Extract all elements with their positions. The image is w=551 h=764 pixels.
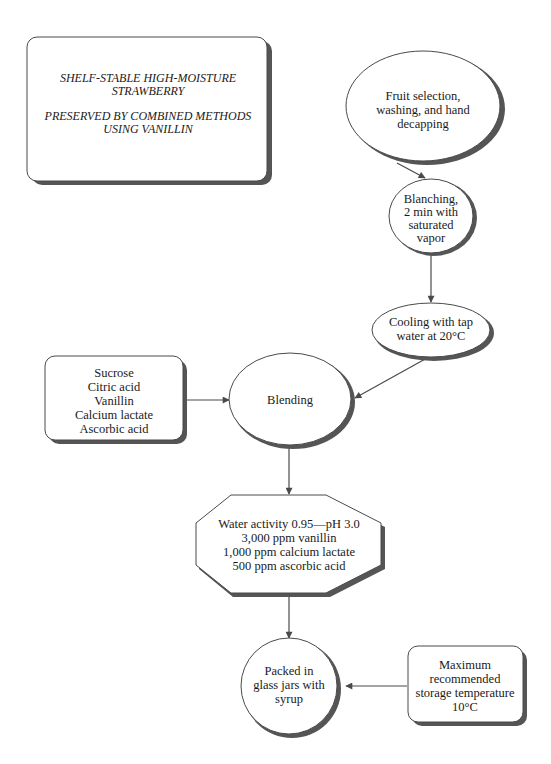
node-storage: Maximum recommended storage temperature … xyxy=(408,646,527,726)
title-line-4: USING VANILLIN xyxy=(103,122,193,136)
node-fruit-selection: Fruit selection, washing, and hand decap… xyxy=(346,51,505,165)
title-line-2: STRAWBERRY xyxy=(112,84,186,98)
svg-text:Blanching,: Blanching, xyxy=(404,192,459,206)
svg-text:washing, and hand: washing, and hand xyxy=(376,103,470,117)
title-line-1: SHELF-STABLE HIGH-MOISTURE xyxy=(60,71,237,85)
node-ingredients: Sucrose Citric acid Vanillin Calcium lac… xyxy=(45,356,187,444)
title-line-3: PRESERVED BY COMBINED METHODS xyxy=(44,109,252,123)
node-formulation: Water activity 0.95—pH 3.0 3,000 ppm van… xyxy=(196,495,385,597)
node-packed: Packed in glass jars with syrup xyxy=(241,638,341,738)
node-blanching: Blanching, 2 min with saturated vapor xyxy=(389,179,477,256)
svg-text:Ascorbic acid: Ascorbic acid xyxy=(79,422,149,436)
svg-text:decapping: decapping xyxy=(397,117,449,131)
svg-text:Cooling with tap: Cooling with tap xyxy=(389,315,473,329)
svg-text:Fruit selection,: Fruit selection, xyxy=(386,89,461,103)
svg-text:Maximum: Maximum xyxy=(439,658,491,672)
svg-text:10°C: 10°C xyxy=(452,700,478,714)
svg-text:Packed in: Packed in xyxy=(265,664,315,678)
svg-text:recommended: recommended xyxy=(430,672,502,686)
svg-text:glass jars with: glass jars with xyxy=(253,678,325,692)
svg-text:Sucrose: Sucrose xyxy=(94,366,134,380)
svg-text:2 min with: 2 min with xyxy=(404,205,459,219)
svg-text:Citric acid: Citric acid xyxy=(88,380,141,394)
node-blending: Blending xyxy=(229,353,355,449)
svg-text:500 ppm ascorbic acid: 500 ppm ascorbic acid xyxy=(233,559,347,573)
flowchart: SHELF-STABLE HIGH-MOISTURE STRAWBERRY PR… xyxy=(0,0,551,764)
edge-fruit-to-blanching xyxy=(397,163,425,178)
edge-cooling-to-blending xyxy=(355,358,427,398)
svg-text:Water activity 0.95—pH 3.0: Water activity 0.95—pH 3.0 xyxy=(218,517,360,531)
svg-text:syrup: syrup xyxy=(275,692,303,706)
svg-text:1,000 ppm calcium lactate: 1,000 ppm calcium lactate xyxy=(223,545,355,559)
svg-text:saturated: saturated xyxy=(408,218,454,232)
svg-text:water at 20°C: water at 20°C xyxy=(397,329,466,343)
svg-text:vapor: vapor xyxy=(417,231,446,245)
svg-text:Calcium lactate: Calcium lactate xyxy=(75,408,154,422)
svg-text:3,000 ppm vanillin: 3,000 ppm vanillin xyxy=(242,531,338,545)
svg-text:storage temperature: storage temperature xyxy=(416,686,515,700)
svg-text:Vanillin: Vanillin xyxy=(94,394,134,408)
node-cooling: Cooling with tap water at 20°C xyxy=(372,303,494,361)
svg-text:Blending: Blending xyxy=(267,393,314,407)
title-box: SHELF-STABLE HIGH-MOISTURE STRAWBERRY PR… xyxy=(27,37,272,185)
